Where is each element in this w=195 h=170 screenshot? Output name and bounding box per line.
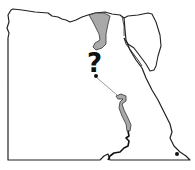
nile-delta bbox=[89, 13, 110, 50]
route-line bbox=[96, 77, 117, 95]
question-mark-annotation: ? bbox=[87, 50, 102, 76]
lake-nasser bbox=[108, 131, 129, 160]
nile-river-segment bbox=[116, 94, 131, 131]
sinai-peninsula bbox=[124, 13, 161, 71]
egypt-map bbox=[0, 0, 195, 170]
marker-point-southeast bbox=[175, 152, 179, 156]
